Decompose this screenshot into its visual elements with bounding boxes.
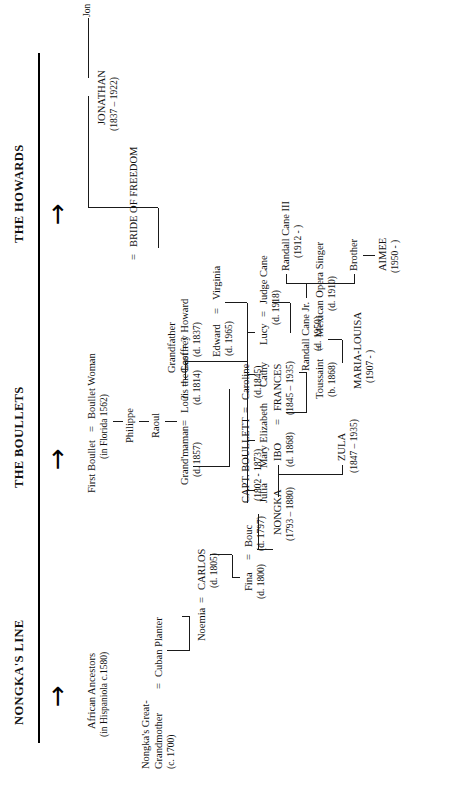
node-bouc: Bouc [243, 525, 255, 547]
node-boullet-woman: Boullet Woman [86, 353, 98, 419]
node-aimee-date: (1950 - ) [390, 240, 401, 273]
connector-nongka-stem [278, 475, 279, 497]
connector-to-toussaint [299, 372, 307, 373]
connector-howards-h2 [88, 96, 89, 208]
node-mexican-opera-singer-date: (d. 1910) [327, 276, 338, 311]
node-louis-the-last-date: (d. 1814) [192, 370, 203, 405]
node-african-ancestors: African Ancestors [86, 653, 98, 729]
node-ibo: IBO [272, 443, 284, 461]
node-judge-cane: Judge Cane [258, 255, 270, 304]
node-judge-cane-date: (d. 1918) [271, 290, 282, 325]
connector-to-zula [342, 465, 343, 475]
connector-frances-down [286, 412, 306, 413]
node-zula: ZULA [336, 433, 348, 461]
node-nongka-dates: (1793 – 1880) [285, 487, 296, 541]
connector-grandmaman-across [229, 389, 230, 467]
connector-edward-caroline-bracket [185, 361, 247, 362]
arrow-icon-the-howards: → [44, 203, 70, 225]
connector-to-ibo [278, 465, 279, 475]
node-randall-cane-jr-date: (d. 1950) [313, 316, 324, 351]
chart-sheet: NONGKA'S LINE THE BOULLETS THE HOWARDS →… [0, 0, 452, 803]
marriage-sign-3: = [243, 554, 255, 560]
node-grandmaman: Grand'maman [179, 426, 191, 485]
node-zula-dates: (1847 – 1935) [349, 419, 360, 473]
node-toussaint: Toussaint [314, 359, 326, 399]
node-carlos: CARLOS [196, 549, 208, 590]
node-raoul: Raoul [150, 413, 162, 438]
connector-howards-h1 [158, 208, 159, 248]
node-edward-date: (d. 1965) [224, 321, 235, 356]
marriage-sign-b1: = [86, 426, 98, 432]
node-frances: FRANCES [272, 364, 284, 411]
node-maria-louisa-dates: (1907 - ) [365, 350, 376, 383]
node-aimee: AIMEE [377, 238, 389, 271]
node-edward: Edward [211, 324, 223, 357]
connector-children-down [225, 302, 247, 303]
marriage-sign-b5: = [211, 308, 223, 314]
node-question-mark: ? [179, 395, 191, 400]
node-maria-louisa: MARIA-LOUISA [352, 312, 364, 389]
arrow-icon-nongkas-line: → [44, 685, 70, 707]
node-jon: Jon [82, 4, 93, 17]
header-nongkas-line: NONGKA'S LINE [12, 619, 26, 725]
header-the-howards: THE HOWARDS [12, 144, 26, 243]
node-mary-elizabeth: Mary Elizabeth [258, 403, 270, 468]
marriage-sign-4: = [272, 419, 284, 425]
connector-nongka-bracket [278, 474, 342, 475]
marriage-sign-b3: = [240, 407, 252, 413]
marriage-sign-b4: = [179, 381, 191, 387]
node-randall-cane-jr: Randall Cane Jr. [300, 302, 312, 371]
node-african-ancestors-note: (in Hispaniola c.1580) [99, 652, 110, 737]
connector-carlos-across [232, 555, 233, 578]
node-noemia: Noemia [196, 608, 208, 641]
node-nongkas-great-grandmother-date: (c. 1700) [166, 735, 177, 769]
node-ibo-date: (d. 1868) [285, 432, 296, 467]
node-fina-date: (d. 1800) [256, 564, 267, 599]
node-randall-cane-iii-date: (1912 - ) [293, 225, 304, 258]
node-nongkas-great-grandmother-line2: Grandmother [153, 713, 165, 769]
connector-toussaint-across [342, 340, 343, 363]
connector-tick-julia [247, 490, 255, 491]
connector-judge-cane-across [290, 303, 291, 333]
connector-philippe-down [139, 421, 149, 422]
marriage-sign-2: = [196, 597, 208, 603]
header-the-boullets: THE BOULLETS [12, 386, 26, 488]
connector-jonathan-to-jon [88, 18, 89, 78]
node-geoffrey-howard-title: Grandfather [166, 322, 178, 373]
node-brother: Brother [348, 239, 360, 271]
connector-howards-v1 [88, 207, 158, 208]
node-virginia: Virginia [211, 266, 223, 300]
connector-carlos-down [210, 554, 232, 555]
connector-to-fina [232, 577, 240, 578]
node-randall-cane-iii: Randall Cane III [280, 201, 292, 271]
connector-first-boullet-down [113, 421, 123, 422]
node-cathy: Cathy [258, 362, 270, 387]
connector-to-randall-iii [286, 274, 287, 284]
connector-judge-cane-down [272, 302, 290, 303]
node-nongkas-great-grandmother-line1: Nongka's Great- [140, 700, 152, 769]
marriage-sign-1: = [153, 683, 165, 689]
connector-tick-mary [247, 440, 255, 441]
connector-bracket-to-edward [185, 362, 186, 370]
connector-tick-cathy [247, 374, 255, 375]
node-geoffrey-howard-date: (d. 1837) [192, 322, 203, 357]
connector-children-bar [247, 303, 248, 503]
node-jonathan: JONATHAN [96, 70, 108, 125]
connector-gg-to-noemia [182, 616, 190, 617]
node-julia: Julia [258, 483, 270, 503]
node-grandmaman-date: (d. 1857) [192, 442, 203, 477]
node-jonathan-dates: (1837 – 1922) [109, 77, 120, 131]
connector-gg-down [167, 650, 189, 651]
marriage-sign-b2: = [179, 420, 191, 426]
connector-frances-across [306, 373, 307, 413]
node-lucy: Lucy [258, 323, 270, 345]
node-first-boullet-place: (in Florida 1562) [99, 394, 110, 459]
arrow-icon-the-boullets: → [44, 448, 70, 470]
connector-toussaint-down [328, 339, 342, 340]
marriage-sign-b6: = [258, 311, 270, 317]
node-bride-of-freedom: BRIDE OF FREEDOM [128, 147, 140, 247]
connector-bouc-across [258, 514, 259, 550]
header-spine [38, 53, 40, 743]
node-carlos-date: (d. 1805) [209, 553, 220, 588]
connector-grandmaman-down [193, 466, 229, 467]
